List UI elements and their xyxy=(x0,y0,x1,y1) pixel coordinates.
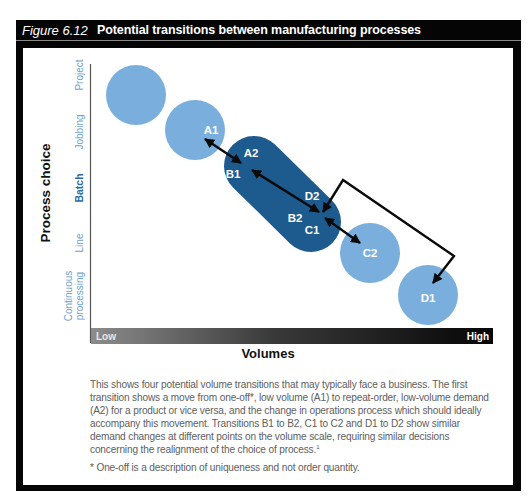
node-batch xyxy=(254,166,311,222)
volume-scale-bar xyxy=(91,328,493,344)
label-c1: C1 xyxy=(305,224,320,236)
label-d1: D1 xyxy=(421,292,436,304)
volume-high-label: High xyxy=(467,331,489,342)
label-a2: A2 xyxy=(244,147,259,159)
label-b1: B1 xyxy=(226,168,241,180)
y-label-line: Line xyxy=(74,233,85,252)
node-project xyxy=(106,65,166,125)
volume-low-label: Low xyxy=(96,331,116,342)
y-label-continuous-line1: Continuous xyxy=(63,271,74,322)
y-label-project: Project xyxy=(74,59,85,90)
figure-caption: This shows four potential volume transit… xyxy=(90,378,490,456)
y-label-continuous-line2: processing xyxy=(74,272,85,320)
x-axis-title: Volumes xyxy=(241,346,294,361)
caption-footnote-ref: 1 xyxy=(316,444,319,450)
y-label-jobbing: Jobbing xyxy=(74,114,85,149)
y-label-batch: Batch xyxy=(73,173,85,202)
caption-text: This shows four potential volume transit… xyxy=(90,379,489,455)
label-d2: D2 xyxy=(305,190,320,202)
figure-footnote: * One-off is a description of uniqueness… xyxy=(90,462,490,473)
label-c2: C2 xyxy=(363,247,378,259)
label-b2: B2 xyxy=(288,212,303,224)
label-a1: A1 xyxy=(204,124,219,136)
y-axis-title: Process choice xyxy=(38,143,53,243)
